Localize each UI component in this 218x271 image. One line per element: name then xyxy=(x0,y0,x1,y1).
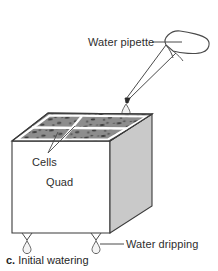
soil-quad-block xyxy=(12,113,152,233)
label-cells: Cells xyxy=(32,156,57,168)
figure-caption: c. Initial watering xyxy=(6,254,89,267)
caption-key: c. xyxy=(6,254,15,266)
label-water-dripping: Water dripping xyxy=(126,238,199,250)
figure-initial-watering: Water pipette Cells Quad Water dripping … xyxy=(0,0,218,271)
label-water-pipette: Water pipette xyxy=(88,36,154,48)
caption-text: Initial watering xyxy=(18,254,88,266)
droplet-right xyxy=(91,233,101,254)
droplet-left xyxy=(22,233,32,254)
label-quad: Quad xyxy=(46,176,73,188)
